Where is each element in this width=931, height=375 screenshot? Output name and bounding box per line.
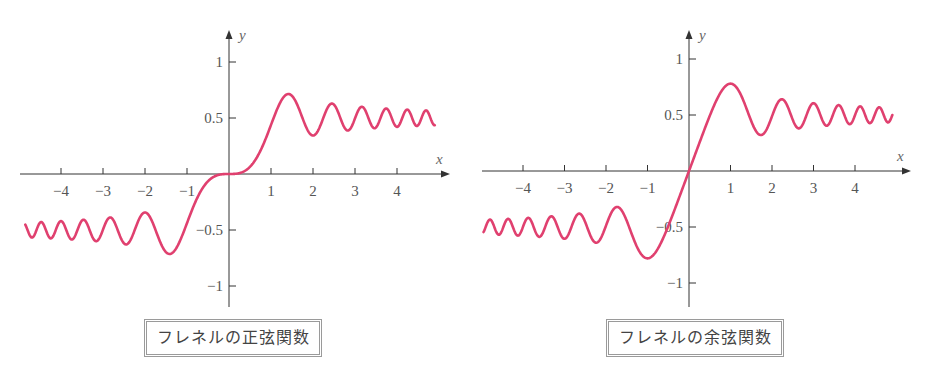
x-axis-arrow-icon xyxy=(902,168,911,175)
x-tick-label: 4 xyxy=(393,183,401,199)
x-tick-label: 2 xyxy=(309,183,317,199)
x-tick-label: 1 xyxy=(727,180,735,196)
y-tick-label: 1 xyxy=(676,51,684,67)
fresnel-cosine-panel: yx−4−3−2−1123410.5−0.5−1 フレネルの余弦関数 xyxy=(466,0,931,375)
y-axis-arrow-icon xyxy=(226,30,233,39)
fresnel-sine-panel: yx−4−3−2−1123410.5−0.5−1 フレネルの正弦関数 xyxy=(0,0,465,375)
y-axis-arrow-icon xyxy=(686,30,693,39)
y-tick-label: 1 xyxy=(216,54,224,70)
x-tick-label: −2 xyxy=(137,183,153,199)
y-axis-label: y xyxy=(237,27,246,43)
x-axis-label: x xyxy=(896,148,904,164)
y-tick-label: 0.5 xyxy=(204,110,223,126)
x-tick-label: 3 xyxy=(351,183,359,199)
x-tick-label: 1 xyxy=(267,183,275,199)
x-tick-label: −1 xyxy=(179,183,195,199)
x-tick-label: 4 xyxy=(851,180,859,196)
y-tick-label: −0.5 xyxy=(196,222,223,238)
fresnel-sine-caption: フレネルの正弦関数 xyxy=(144,319,322,357)
y-tick-label: −1 xyxy=(667,275,683,291)
y-axis-label: y xyxy=(697,27,706,43)
y-tick-label: −1 xyxy=(207,278,223,294)
x-tick-label: −3 xyxy=(95,183,111,199)
x-axis-arrow-icon xyxy=(441,171,450,178)
y-tick-label: 0.5 xyxy=(664,107,683,123)
fresnel-cosine-caption: フレネルの余弦関数 xyxy=(606,319,784,357)
x-tick-label: −3 xyxy=(557,180,573,196)
x-tick-label: 2 xyxy=(768,180,776,196)
x-axis-label: x xyxy=(435,151,443,167)
x-tick-label: 3 xyxy=(810,180,818,196)
x-tick-label: −1 xyxy=(640,180,656,196)
x-tick-label: −2 xyxy=(598,180,614,196)
x-tick-label: −4 xyxy=(53,183,69,199)
x-tick-label: −4 xyxy=(515,180,531,196)
